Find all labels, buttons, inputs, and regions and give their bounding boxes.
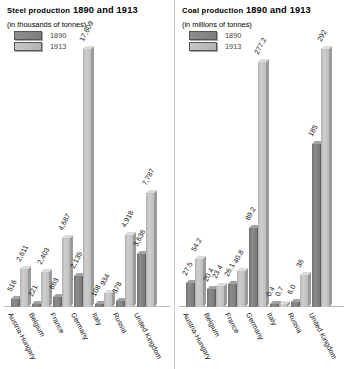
coal-plot-area: 27.554.2Austria-Hungary20.423.4Belgium26… [175,0,347,369]
bar-1890 [116,301,124,307]
bar-1913 [20,269,28,307]
bar-value-label: 185 [306,123,320,138]
bar-face [11,299,19,307]
bar-value-label: 4,918 [119,209,135,229]
bar-value-label: 2,403 [35,246,51,266]
bar-1913 [62,238,70,307]
bar-value-label: 40.8 [231,248,246,265]
bar-value-label: 292 [315,28,329,43]
steel-production-chart: Steel production 1890 and 1913 (in thous… [0,0,174,369]
bar-1890 [11,299,19,307]
bar-side [329,46,332,307]
bar-side [224,283,227,307]
bar-face [207,289,215,307]
bar-value-label: 36 [294,258,306,269]
bar-1890 [53,297,61,307]
bar-1890 [137,254,145,307]
bar-value-label: 4,687 [56,212,72,232]
category-label: Russia [286,311,304,335]
bar-1913 [300,275,308,307]
category-label: United Kingdom [307,311,339,360]
category-label: Germany [69,311,91,341]
bar-value-label: 17,609 [77,19,95,43]
bar-1890 [228,284,236,307]
bar-face [95,304,103,307]
bar-face [41,272,49,307]
bar-face [300,275,308,307]
bar-1913 [321,49,329,307]
bar-1913 [146,193,154,307]
bar-face [83,49,91,307]
bar-face [312,144,320,307]
bar-value-label: 516 [5,279,19,294]
bar-value-label: 27.5 [180,260,195,277]
bar-face [249,228,257,307]
bar-value-label: 7,787 [140,167,156,187]
bar-face [321,49,329,307]
bar-1890 [95,304,103,307]
bar-face [116,301,124,307]
bar-value-label: 6.0 [285,283,298,296]
bar-1913 [125,235,133,307]
bar-value-label: 2,611 [14,243,30,263]
bar-face [237,271,245,307]
bar-1890 [207,289,215,307]
bar-face [137,254,145,307]
bar-1890 [186,283,194,307]
category-label: Italy [265,311,279,327]
category-label: Belgium [27,311,47,338]
bar-side [266,59,269,307]
bar-face [195,259,203,307]
bar-1913 [216,286,224,307]
category-label: Germany [244,311,266,341]
category-label: Belgium [202,311,222,338]
bar-face [186,283,194,307]
bar-1913 [104,293,112,307]
bar-value-label: 277.2 [252,36,268,56]
bar-value-label: 3,636 [131,228,147,248]
bar-face [20,269,28,307]
bar-face [216,286,224,307]
category-label: Italy [90,311,104,327]
bar-1890 [249,228,257,307]
bar-face [32,304,40,307]
bar-face [62,238,70,307]
bar-face [291,302,299,307]
bar-value-label: 26.1 [222,261,237,278]
bar-side [308,272,311,307]
bar-face [258,62,266,307]
bar-face [279,304,287,307]
bar-side [70,235,73,307]
bar-1890 [291,302,299,307]
bar-1913 [258,62,266,307]
bar-1913 [195,259,203,307]
bar-face [125,235,133,307]
category-label: France [48,311,66,335]
bar-side [91,46,94,307]
category-label: Russia [111,311,129,335]
bar-1890 [270,304,278,307]
category-label: France [223,311,241,335]
bar-face [270,304,278,307]
bar-1913 [279,304,287,307]
bar-1890 [74,276,82,307]
category-label: United Kingdom [132,311,164,360]
bar-side [245,268,248,307]
bar-1913 [83,49,91,307]
steel-plot-area: 5162,611Austria-Hungary2212,403Belgium66… [0,0,174,369]
bar-value-label: 89.2 [243,206,258,223]
bar-1890 [32,304,40,307]
bar-1913 [41,272,49,307]
bar-face [228,284,236,307]
coal-production-chart: Coal production 1890 and 1913 (in millio… [174,0,347,369]
bar-1890 [312,144,320,307]
bar-face [53,297,61,307]
bar-face [146,193,154,307]
bar-1913 [237,271,245,307]
bar-face [74,276,82,307]
bar-side [154,190,157,307]
bar-face [104,293,112,307]
bar-value-label: 54.2 [189,237,204,254]
